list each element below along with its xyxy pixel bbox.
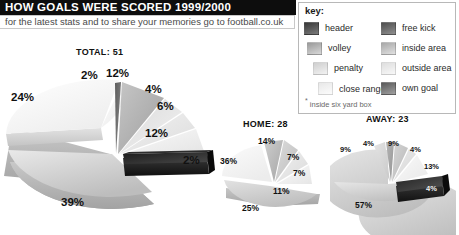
swatch-header	[304, 22, 319, 35]
legend-label-penalty: penalty	[334, 63, 363, 73]
legend-label-free-kick: free kick	[402, 23, 436, 33]
home-pct-7a: 7%	[287, 152, 299, 162]
swatch-free-kick	[381, 22, 396, 35]
swatch-outside-area	[381, 62, 396, 75]
home-pct-14: 14%	[258, 136, 275, 146]
legend-label-own-goal: own goal	[402, 83, 438, 93]
legend-label-outside-area: outside area	[402, 63, 452, 73]
total-pct-2b: 2%	[183, 154, 200, 166]
swatch-close-range	[318, 82, 333, 95]
total-pct-12a: 12%	[106, 67, 129, 79]
legend-label-volley: volley	[328, 43, 351, 53]
swatch-volley	[307, 42, 322, 55]
subtitle-text: for the latest stats and to share your m…	[5, 16, 283, 27]
legend-label-header: header	[325, 23, 353, 33]
legend-footnote: * inside six yard box	[305, 97, 372, 109]
away-pct-57: 57%	[355, 200, 372, 210]
legend-label-inside-area: inside area	[402, 43, 446, 53]
away-pct-4b: 4%	[410, 145, 421, 154]
total-pct-12b: 12%	[145, 127, 168, 139]
total-pct-2a: 2%	[81, 69, 98, 81]
away-pct-13: 13%	[424, 162, 439, 171]
legend-column-left: header volley penalty close range*	[304, 18, 382, 98]
home-pct-25: 25%	[242, 203, 259, 213]
swatch-penalty	[313, 62, 328, 75]
swatch-inside-area	[381, 42, 396, 55]
home-pct-7b: 7%	[293, 168, 305, 178]
legend-item-inside-area: inside area	[381, 38, 457, 58]
total-pct-4: 4%	[145, 83, 162, 95]
total-pct-39: 39%	[61, 196, 84, 208]
away-pct-4c: 4%	[426, 184, 437, 193]
away-pct-4a: 4%	[363, 139, 374, 148]
away-pct-9b: 9%	[388, 139, 399, 148]
home-pct-36: 36%	[220, 156, 237, 166]
home-pct-11: 11%	[273, 186, 290, 196]
total-pie-chart: 2% 12% 4% 6% 12% 2% 39% 24%	[2, 58, 230, 233]
total-pct-6: 6%	[157, 100, 174, 112]
legend-item-free-kick: free kick	[381, 18, 457, 38]
total-chart-title: TOTAL: 51	[76, 47, 123, 57]
legend-item-penalty: penalty	[304, 58, 382, 78]
legend-item-header: header	[304, 18, 382, 38]
total-pct-24: 24%	[11, 91, 34, 103]
page-title: HOW GOALS WERE SCORED 1999/2000	[5, 1, 231, 13]
legend-item-own-goal: own goal	[381, 78, 457, 98]
legend-item-volley: volley	[304, 38, 382, 58]
away-pie-chart: 9% 4% 9% 4% 13% 4% 57%	[330, 124, 456, 235]
legend-title: key:	[305, 5, 324, 16]
home-pie-chart: 14% 7% 7% 11% 25% 36%	[220, 128, 332, 234]
away-chart-title: AWAY: 23	[366, 114, 409, 124]
legend-item-close-range: close range*	[304, 78, 382, 98]
swatch-own-goal	[381, 82, 396, 95]
legend-column-right: free kick inside area outside area own g…	[381, 18, 457, 98]
away-pct-9a: 9%	[340, 145, 351, 154]
legend-item-outside-area: outside area	[381, 58, 457, 78]
